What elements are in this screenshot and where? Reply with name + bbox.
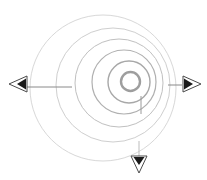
marker-right[interactable] xyxy=(183,76,201,92)
diagram-canvas xyxy=(0,0,207,180)
marker-bottom[interactable] xyxy=(131,156,147,173)
radial-line-group xyxy=(27,85,182,156)
ring-4 xyxy=(92,50,156,114)
ring-5 xyxy=(108,61,150,103)
ring-2 xyxy=(56,28,170,142)
outer-ring xyxy=(30,15,176,161)
inner-ring xyxy=(121,72,140,91)
ring-group xyxy=(30,15,176,161)
concentric-circles-diagram xyxy=(0,0,207,180)
marker-left[interactable] xyxy=(9,76,27,92)
